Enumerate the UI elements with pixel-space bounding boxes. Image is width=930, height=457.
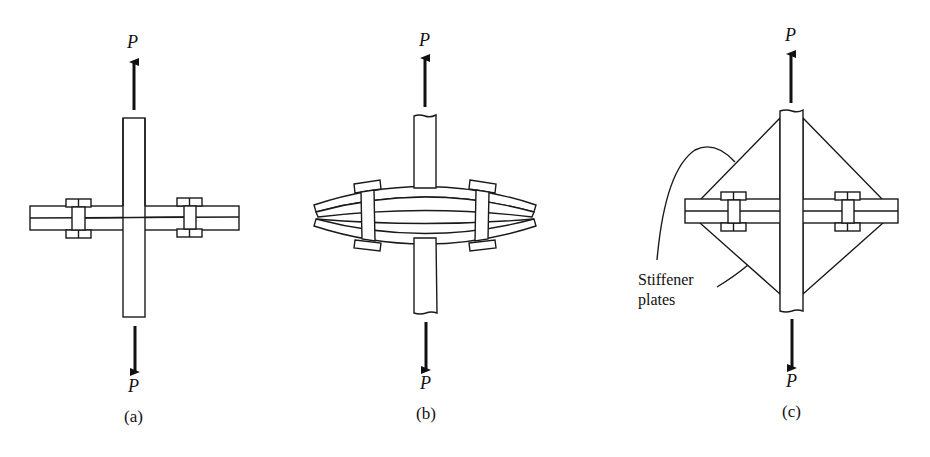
panel-a-drawing <box>30 62 239 372</box>
stiffener-plates-annotation: Stiffener plates <box>638 270 694 310</box>
load-label-top-a: P <box>127 32 138 53</box>
caption-b: (b) <box>416 404 436 424</box>
load-label-top-b: P <box>419 30 430 51</box>
annotation-line-2: plates <box>638 290 694 310</box>
load-label-bottom-a: P <box>128 376 139 397</box>
load-label-top-c: P <box>785 25 796 46</box>
load-label-bottom-c: P <box>786 371 797 392</box>
panel-c-drawing <box>657 54 898 368</box>
panel-b-drawing <box>314 58 536 370</box>
annotation-line-1: Stiffener <box>638 270 694 290</box>
leader-line-lower <box>717 265 748 287</box>
caption-a: (a) <box>124 407 143 427</box>
caption-c: (c) <box>782 402 801 422</box>
load-label-bottom-b: P <box>420 373 431 394</box>
